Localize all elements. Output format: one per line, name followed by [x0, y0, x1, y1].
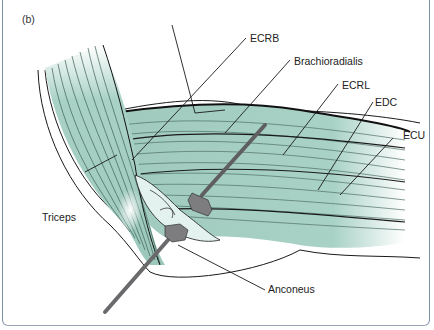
label-ecrb: ECRB — [250, 32, 279, 44]
label-ecrl: ECRL — [342, 79, 370, 91]
panel-label: (b) — [22, 13, 35, 25]
label-brachioradialis: Brachioradialis — [294, 55, 363, 67]
label-triceps: Triceps — [42, 211, 76, 223]
elbow-anatomy-diagram: (b) — [0, 0, 434, 330]
label-ecu: ECU — [403, 129, 425, 141]
label-edc: EDC — [375, 96, 398, 108]
label-anconeus: Anconeus — [268, 283, 315, 295]
